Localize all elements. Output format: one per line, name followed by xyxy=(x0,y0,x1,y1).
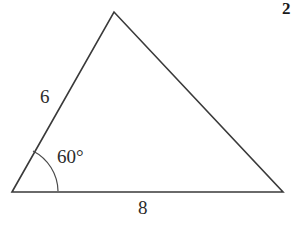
triangle-outline xyxy=(12,12,283,192)
side-length-label-left: 6 xyxy=(40,87,50,106)
figure-canvas: 6 8 60° 2 xyxy=(0,0,296,229)
side-length-label-base: 8 xyxy=(138,198,148,217)
problem-number-label: 2 xyxy=(282,0,291,17)
triangle-diagram-svg xyxy=(0,0,296,229)
angle-measure-label: 60° xyxy=(57,147,84,166)
